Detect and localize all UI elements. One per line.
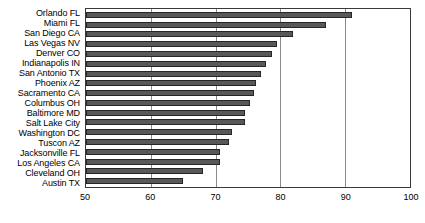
- bar-chart: Orlando FLMiami FLSan Diego CALas Vegas …: [0, 0, 425, 223]
- bar: [86, 71, 261, 77]
- category-label: Los Angeles CA: [0, 158, 83, 168]
- bar: [86, 149, 220, 155]
- category-label: Orlando FL: [0, 8, 83, 18]
- bar-row: [86, 118, 410, 128]
- bar: [86, 51, 272, 57]
- category-label: Denver CO: [0, 48, 83, 58]
- category-label: Miami FL: [0, 18, 83, 28]
- category-label: Washington DC: [0, 128, 83, 138]
- category-label: Las Vegas NV: [0, 38, 83, 48]
- bar-row: [86, 30, 410, 40]
- bar-row: [86, 157, 410, 167]
- category-label: Columbus OH: [0, 98, 83, 108]
- x-tick-label: 60: [145, 192, 155, 202]
- x-tick-label: 90: [341, 192, 351, 202]
- category-label: Austin TX: [0, 178, 83, 188]
- x-tick-label: 80: [276, 192, 286, 202]
- bar-row: [86, 98, 410, 108]
- bar: [86, 22, 326, 28]
- bar-row: [86, 69, 410, 79]
- bars-layer: [86, 9, 410, 187]
- bar: [86, 31, 293, 37]
- category-label: Cleveland OH: [0, 168, 83, 178]
- x-tick-label: 50: [80, 192, 90, 202]
- category-label: San Antonio TX: [0, 68, 83, 78]
- bar: [86, 41, 277, 47]
- bar-row: [86, 20, 410, 30]
- bar-row: [86, 167, 410, 177]
- category-axis: Orlando FLMiami FLSan Diego CALas Vegas …: [0, 8, 83, 188]
- bar-row: [86, 10, 410, 20]
- bar-row: [86, 108, 410, 118]
- bar: [86, 129, 232, 135]
- bar: [86, 100, 250, 106]
- bar-row: [86, 176, 410, 186]
- bar: [86, 159, 220, 165]
- category-label: Sacramento CA: [0, 88, 83, 98]
- x-tick-label: 70: [210, 192, 220, 202]
- x-tick-label: 100: [403, 192, 418, 202]
- bar-row: [86, 59, 410, 69]
- bar-row: [86, 78, 410, 88]
- category-label: Baltimore MD: [0, 108, 83, 118]
- category-label: Tuscon AZ: [0, 138, 83, 148]
- category-label: Jacksonville FL: [0, 148, 83, 158]
- category-label: Salt Lake City: [0, 118, 83, 128]
- category-label: Indianapolis IN: [0, 58, 83, 68]
- bar-row: [86, 49, 410, 59]
- bar-row: [86, 88, 410, 98]
- bar: [86, 80, 256, 86]
- category-label: Phoenix AZ: [0, 78, 83, 88]
- bar: [86, 61, 266, 67]
- category-label: San Diego CA: [0, 28, 83, 38]
- bar-row: [86, 127, 410, 137]
- bar: [86, 90, 254, 96]
- bar: [86, 178, 183, 184]
- bar-row: [86, 39, 410, 49]
- bar: [86, 168, 203, 174]
- value-axis: 5060708090100: [85, 189, 411, 211]
- bar-row: [86, 147, 410, 157]
- bar: [86, 119, 245, 125]
- plot-area: [85, 8, 411, 188]
- bar-row: [86, 137, 410, 147]
- bar: [86, 12, 352, 18]
- bar: [86, 110, 245, 116]
- bar: [86, 139, 229, 145]
